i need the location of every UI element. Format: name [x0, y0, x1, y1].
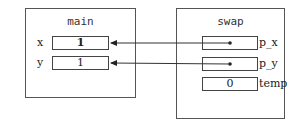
arrow-p_x-to-x — [111, 41, 232, 45]
pointer-arrows — [0, 0, 301, 124]
arrow-p_y-to-y — [111, 62, 232, 66]
